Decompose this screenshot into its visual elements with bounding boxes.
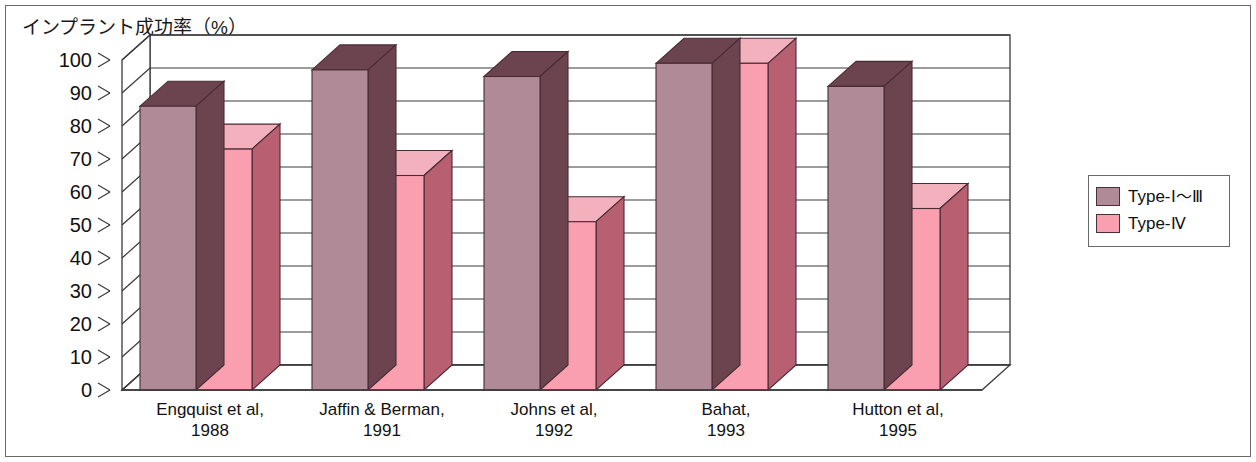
- bar-side-face: [540, 52, 568, 391]
- bar-side-face: [884, 61, 912, 390]
- bar-group: [656, 38, 796, 390]
- bar-type1-3: [140, 81, 224, 390]
- y-tick: [98, 185, 110, 192]
- bar-side-face: [596, 197, 624, 390]
- y-tick: [98, 324, 110, 331]
- bar-type1-3: [484, 52, 568, 391]
- bar-group: [140, 81, 280, 390]
- y-tick: [98, 357, 110, 364]
- legend-label-type1-3: Type-Ⅰ～Ⅲ: [1128, 188, 1203, 205]
- legend-item-type1-3[interactable]: Type-Ⅰ～Ⅲ: [1096, 183, 1223, 210]
- y-tick: [98, 284, 110, 291]
- x-category-label: Hutton et al,: [852, 400, 944, 419]
- legend-item-type4[interactable]: Type-Ⅳ: [1096, 210, 1223, 237]
- bar-side-face: [252, 124, 280, 390]
- y-tick: [98, 53, 110, 60]
- x-category-label: 1988: [191, 421, 229, 440]
- y-tick: [98, 119, 110, 126]
- y-tick-label: 40: [70, 247, 92, 269]
- x-category-label: Johns et al,: [511, 400, 598, 419]
- y-tick: [98, 383, 110, 390]
- bar-side-face: [196, 81, 224, 390]
- bar-side-face: [940, 184, 968, 391]
- bar-type1-3: [656, 38, 740, 390]
- y-tick: [98, 317, 110, 324]
- y-tick: [98, 291, 110, 298]
- y-tick: [98, 225, 110, 232]
- chart-legend: Type-Ⅰ～Ⅲ Type-Ⅳ: [1088, 175, 1230, 247]
- chart-figure: インプラント成功率（%） 0102030405060708090100Engqu…: [0, 0, 1256, 462]
- bar-side-face: [712, 38, 740, 390]
- x-category-label: Jaffin & Berman,: [319, 400, 444, 419]
- y-tick: [98, 350, 110, 357]
- y-tick: [98, 218, 110, 225]
- y-tick: [98, 86, 110, 93]
- bar-side-face: [368, 45, 396, 390]
- bar-front-face: [484, 77, 540, 391]
- y-tick-label: 20: [70, 313, 92, 335]
- legend-label-type4: Type-Ⅳ: [1128, 215, 1186, 232]
- legend-swatch-type1-3: [1096, 187, 1120, 206]
- y-tick: [98, 126, 110, 133]
- bar-front-face: [828, 86, 884, 390]
- y-tick-label: 30: [70, 280, 92, 302]
- y-tick-label: 100: [59, 49, 92, 71]
- y-tick: [98, 159, 110, 166]
- bar-type1-3: [828, 61, 912, 390]
- y-tick-label: 10: [70, 346, 92, 368]
- y-tick-label: 90: [70, 82, 92, 104]
- x-category-label: Engquist et al,: [156, 400, 264, 419]
- y-tick-label: 50: [70, 214, 92, 236]
- x-category-label: 1995: [879, 421, 917, 440]
- plot-area: 0102030405060708090100Engquist et al,198…: [0, 0, 1256, 462]
- bar-front-face: [140, 106, 196, 390]
- bar-side-face: [768, 38, 796, 390]
- y-tick: [98, 390, 110, 397]
- y-tick: [98, 251, 110, 258]
- bar-front-face: [312, 70, 368, 390]
- y-tick: [98, 60, 110, 67]
- x-category-label: 1993: [707, 421, 745, 440]
- y-tick: [98, 152, 110, 159]
- y-tick: [98, 93, 110, 100]
- bar-side-face: [424, 151, 452, 391]
- x-category-label: Bahat,: [701, 400, 750, 419]
- x-category-label: 1991: [363, 421, 401, 440]
- x-category-label: 1992: [535, 421, 573, 440]
- y-tick-label: 70: [70, 148, 92, 170]
- legend-swatch-type4: [1096, 214, 1120, 233]
- y-tick-label: 80: [70, 115, 92, 137]
- bar-type1-3: [312, 45, 396, 390]
- y-tick: [98, 258, 110, 265]
- bar-front-face: [656, 63, 712, 390]
- y-tick-label: 0: [81, 379, 92, 401]
- y-tick: [98, 192, 110, 199]
- y-tick-label: 60: [70, 181, 92, 203]
